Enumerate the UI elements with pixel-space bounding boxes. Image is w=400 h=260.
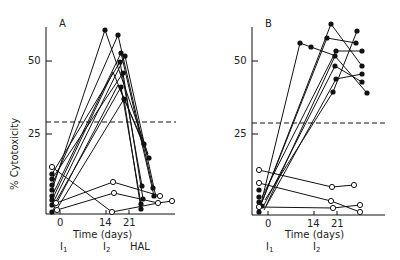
panel-b bbox=[252, 21, 385, 215]
panel-b-xlabel: Time (days) bbox=[284, 229, 344, 240]
panel-a-annotation-i1: I1 bbox=[60, 241, 67, 254]
panel-a-annotation-hal: HAL bbox=[130, 241, 150, 252]
panel-a-xtick-label-21: 21 bbox=[123, 217, 136, 228]
panel-b-annotation-i1: I1 bbox=[266, 241, 273, 254]
panel-b-xtick-label-21: 21 bbox=[331, 218, 344, 229]
panel-a bbox=[46, 27, 176, 215]
panel-a-ytick-label-25: 25 bbox=[28, 128, 41, 139]
panel-b-ytick-label-25: 25 bbox=[234, 128, 247, 139]
panel-a-xtick-label-14: 14 bbox=[99, 217, 112, 228]
panel-b-xtick-label-0: 0 bbox=[265, 218, 271, 229]
panel-b-annotation-i2: I2 bbox=[313, 241, 320, 254]
y-axis-label: % Cytotoxicity bbox=[9, 118, 20, 190]
panel-a-label: A bbox=[59, 18, 66, 29]
panel-a-xlabel: Time (days) bbox=[72, 229, 132, 240]
panel-b-ytick-label-50: 50 bbox=[234, 55, 247, 66]
panel-b-label: B bbox=[265, 18, 272, 29]
panel-a-xtick-label-0: 0 bbox=[57, 217, 63, 228]
panel-a-annotation-i2: I2 bbox=[103, 241, 110, 254]
panel-b-xtick-label-14: 14 bbox=[307, 218, 320, 229]
figure: A 50 25 0 14 21 Time (days) I1 I2 HAL % … bbox=[0, 0, 400, 260]
panel-a-ytick-label-50: 50 bbox=[28, 55, 41, 66]
